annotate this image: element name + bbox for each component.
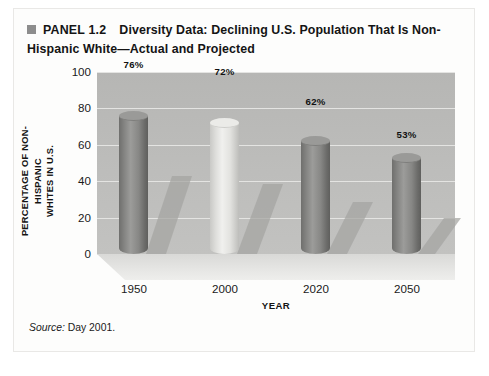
y-axis-ticks: 100 80 60 40 20 0: [59, 64, 91, 254]
bar-top-cap: [210, 118, 239, 128]
bar-2000[interactable]: 72%: [210, 72, 239, 254]
bar-value-label: 62%: [292, 96, 339, 107]
chart-floor-surface: [97, 254, 455, 280]
y-axis-title-line1: PERCENTAGE OF NON-HISPANIC: [19, 106, 44, 256]
y-axis-title: PERCENTAGE OF NON-HISPANIC WHITES IN U.S…: [19, 106, 45, 256]
source-note: Source: Day 2001.: [29, 322, 115, 333]
chart-container: PERCENTAGE OF NON-HISPANIC WHITES IN U.S…: [27, 64, 461, 309]
chart-floor: [97, 254, 455, 280]
y-tick-label: 100: [72, 66, 91, 78]
source-citation: Day 2001.: [68, 322, 115, 333]
panel-label: PANEL 1.2: [43, 23, 106, 37]
panel-figure: PANEL 1.2Diversity Data: Declining U.S. …: [0, 0, 489, 376]
x-tick-label: 2020: [286, 282, 346, 295]
y-tick-label: 20: [78, 212, 91, 224]
y-axis-title-line2: WHITES IN U.S.: [44, 106, 57, 256]
panel-title-block: PANEL 1.2Diversity Data: Declining U.S. …: [27, 21, 447, 58]
x-tick-label: 2050: [377, 282, 437, 295]
bar-shadow: [327, 202, 373, 254]
plot-area: 76% 72% 62% 53%: [97, 72, 455, 254]
x-tick-label: 2000: [195, 282, 255, 295]
bar-shadow: [237, 184, 283, 254]
y-tick-label: 80: [78, 102, 91, 114]
filled-square-icon: [27, 25, 36, 34]
bar-value-label: 53%: [383, 129, 430, 140]
bar-value-label: 72%: [201, 66, 248, 77]
bar-2020[interactable]: 62%: [301, 72, 330, 254]
bar-shadow: [146, 176, 192, 254]
bar-top-cap: [119, 111, 148, 121]
bar-top-cap: [301, 136, 330, 146]
bar-1950[interactable]: 76%: [119, 72, 148, 254]
bar-2050[interactable]: 53%: [392, 72, 421, 254]
y-tick-label: 40: [78, 175, 91, 187]
x-axis-ticks: 1950 2000 2020 2050: [97, 282, 455, 298]
bar-shadow: [418, 218, 461, 254]
y-tick-label: 0: [85, 248, 91, 260]
x-tick-label: 1950: [104, 282, 164, 295]
bar-top-cap: [392, 153, 421, 163]
bar-value-label: 76%: [110, 59, 157, 70]
x-axis-title: YEAR: [97, 300, 455, 311]
source-keyword: Source:: [29, 322, 65, 333]
y-tick-label: 60: [78, 139, 91, 151]
